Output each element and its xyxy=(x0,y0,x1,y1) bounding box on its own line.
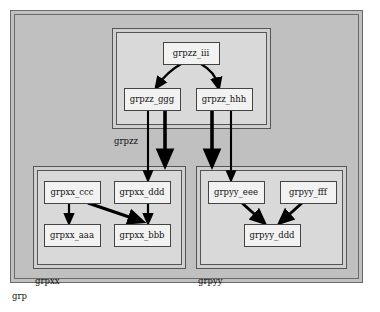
graph-svg xyxy=(0,0,380,312)
node-label-grpyy_fff: grpyy_fff xyxy=(280,188,336,197)
cluster-label-grpzz: grpzz xyxy=(114,137,138,146)
node-label-grpyy_eee: grpyy_eee xyxy=(208,188,264,197)
node-label-grpzz_iii: grpzz_iii xyxy=(163,49,219,58)
cluster-label-grpyy: grpyy xyxy=(198,277,223,286)
node-label-grpxx_ccc: grpxx_ccc xyxy=(44,188,100,197)
cluster-label-grpxx: grpxx xyxy=(35,277,60,286)
node-label-grpyy_ddd: grpyy_ddd xyxy=(244,231,300,240)
graph-canvas: grpzzgrpzz_iiigrpzz_ggggrpzz_hhhgrpxxgrp… xyxy=(0,0,380,312)
graph-label: grp xyxy=(12,292,27,301)
node-label-grpxx_ddd: grpxx_ddd xyxy=(114,188,170,197)
node-label-grpzz_ggg: grpzz_ggg xyxy=(124,95,180,104)
node-label-grpxx_aaa: grpxx_aaa xyxy=(44,231,100,240)
node-label-grpxx_bbb: grpxx_bbb xyxy=(114,231,170,240)
node-label-grpzz_hhh: grpzz_hhh xyxy=(196,95,252,104)
